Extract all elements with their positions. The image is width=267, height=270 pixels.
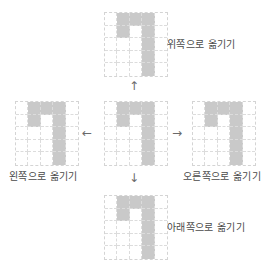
filled-cell xyxy=(142,127,154,140)
grid-right xyxy=(192,101,256,166)
filled-cell xyxy=(142,38,154,51)
empty-cell xyxy=(41,127,53,140)
empty-cell xyxy=(155,234,167,247)
filled-cell xyxy=(130,13,142,26)
filled-cell xyxy=(230,102,242,115)
empty-cell xyxy=(155,38,167,51)
empty-cell xyxy=(105,140,117,153)
empty-cell xyxy=(155,51,167,64)
empty-cell xyxy=(105,152,117,165)
filled-cell xyxy=(142,209,154,222)
filled-cell xyxy=(142,51,154,64)
filled-cell xyxy=(117,102,129,115)
empty-cell xyxy=(41,115,53,128)
empty-cell xyxy=(105,209,117,222)
empty-cell xyxy=(117,127,129,140)
empty-cell xyxy=(193,140,205,153)
empty-cell xyxy=(155,140,167,153)
empty-cell xyxy=(16,140,28,153)
empty-cell xyxy=(117,63,129,76)
filled-cell xyxy=(117,26,129,39)
empty-cell xyxy=(218,127,230,140)
empty-cell xyxy=(243,102,255,115)
filled-cell xyxy=(41,102,53,115)
empty-cell xyxy=(117,38,129,51)
empty-cell xyxy=(117,221,129,234)
empty-cell xyxy=(243,152,255,165)
label-move-up: 위쪽으로 옮기기 xyxy=(167,36,236,51)
empty-cell xyxy=(105,51,117,64)
filled-cell xyxy=(142,13,154,26)
filled-cell xyxy=(142,234,154,247)
label-move-right: 오른쪽으로 옮기기 xyxy=(183,168,261,183)
empty-cell xyxy=(130,152,142,165)
empty-cell xyxy=(130,209,142,222)
filled-cell xyxy=(117,196,129,209)
empty-cell xyxy=(155,209,167,222)
empty-cell xyxy=(218,115,230,128)
empty-cell xyxy=(193,102,205,115)
empty-cell xyxy=(130,246,142,259)
filled-cell xyxy=(28,115,40,128)
filled-cell xyxy=(53,152,65,165)
grid-left xyxy=(15,101,79,166)
empty-cell xyxy=(130,38,142,51)
arrow-right-icon: → xyxy=(172,127,182,139)
empty-cell xyxy=(117,140,129,153)
empty-cell xyxy=(130,127,142,140)
empty-cell xyxy=(117,246,129,259)
empty-cell xyxy=(193,115,205,128)
filled-cell xyxy=(28,102,40,115)
empty-cell xyxy=(16,127,28,140)
arrow-left-icon: ← xyxy=(82,127,92,139)
empty-cell xyxy=(41,140,53,153)
empty-cell xyxy=(105,26,117,39)
filled-cell xyxy=(53,140,65,153)
empty-cell xyxy=(28,127,40,140)
empty-cell xyxy=(117,234,129,247)
empty-cell xyxy=(218,140,230,153)
filled-cell xyxy=(142,246,154,259)
empty-cell xyxy=(28,152,40,165)
empty-cell xyxy=(155,13,167,26)
empty-cell xyxy=(155,196,167,209)
filled-cell xyxy=(205,115,217,128)
empty-cell xyxy=(155,152,167,165)
empty-cell xyxy=(205,127,217,140)
label-move-down: 아래쪽으로 옮기기 xyxy=(167,219,245,234)
empty-cell xyxy=(130,26,142,39)
label-move-left: 왼쪽으로 옮기기 xyxy=(9,168,78,183)
empty-cell xyxy=(155,26,167,39)
empty-cell xyxy=(105,234,117,247)
empty-cell xyxy=(105,38,117,51)
empty-cell xyxy=(16,115,28,128)
empty-cell xyxy=(243,127,255,140)
arrow-down-icon: ↓ xyxy=(129,172,139,184)
empty-cell xyxy=(130,221,142,234)
filled-cell xyxy=(142,102,154,115)
empty-cell xyxy=(243,140,255,153)
clipped-header-text xyxy=(30,0,160,3)
empty-cell xyxy=(105,13,117,26)
filled-cell xyxy=(142,152,154,165)
empty-cell xyxy=(130,63,142,76)
empty-cell xyxy=(41,152,53,165)
empty-cell xyxy=(130,115,142,128)
filled-cell xyxy=(218,102,230,115)
empty-cell xyxy=(105,102,117,115)
empty-cell xyxy=(155,246,167,259)
empty-cell xyxy=(130,51,142,64)
empty-cell xyxy=(105,221,117,234)
filled-cell xyxy=(230,140,242,153)
empty-cell xyxy=(193,152,205,165)
filled-cell xyxy=(142,63,154,76)
empty-cell xyxy=(205,140,217,153)
empty-cell xyxy=(155,63,167,76)
filled-cell xyxy=(53,115,65,128)
grid-bottom xyxy=(104,195,168,260)
filled-cell xyxy=(53,127,65,140)
filled-cell xyxy=(142,196,154,209)
arrow-up-icon: ↑ xyxy=(129,80,139,92)
empty-cell xyxy=(66,140,78,153)
empty-cell xyxy=(28,140,40,153)
